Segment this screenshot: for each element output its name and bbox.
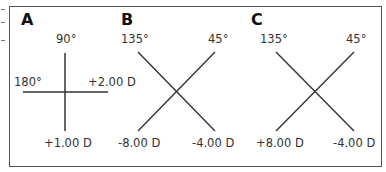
panel-b-top-left-label: 135°	[121, 32, 149, 46]
panel-c-top-left-label: 135°	[260, 32, 288, 46]
panel-b-bottom-right-label: -4.00 D	[192, 136, 234, 150]
panel-b-top-right-label: 45°	[208, 32, 228, 46]
panel-a-left-label: 180°	[14, 75, 42, 89]
panel-a-bottom-label: +1.00 D	[44, 136, 92, 150]
panel-a-letter: A	[21, 10, 33, 29]
panel-a-top-label: 90°	[56, 32, 76, 46]
panel-c-letter: C	[251, 10, 263, 29]
panel-c-bottom-right-label: -4.00 D	[333, 136, 375, 150]
panel-b-bottom-left-label: -8.00 D	[118, 136, 160, 150]
panel-b-letter: B	[121, 10, 133, 29]
panel-a-right-label: +2.00 D	[88, 75, 136, 89]
panel-c-bottom-left-label: +8.00 D	[256, 136, 304, 150]
panel-c-top-right-label: 45°	[346, 32, 366, 46]
